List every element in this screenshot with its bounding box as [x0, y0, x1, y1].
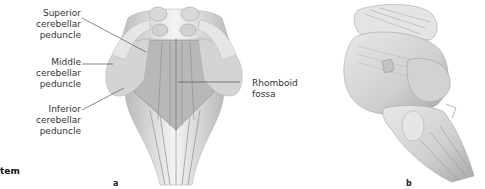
label-middle-cerebellar-peduncle: Middle cerebellar peduncle	[26, 57, 81, 90]
label-inferior-cerebellar-peduncle: Inferior cerebellar peduncle	[26, 104, 81, 137]
panel-letter-a: a	[113, 179, 118, 188]
panel-letter-b: b	[406, 179, 412, 188]
label-rhomboid-fossa: Rhomboid fossa	[252, 78, 312, 100]
panel-a-drawing	[106, 7, 243, 185]
caption-fragment: tem	[0, 166, 20, 176]
panel-b-drawing	[344, 4, 474, 182]
label-superior-cerebellar-peduncle: Superior cerebellar peduncle	[26, 8, 81, 41]
